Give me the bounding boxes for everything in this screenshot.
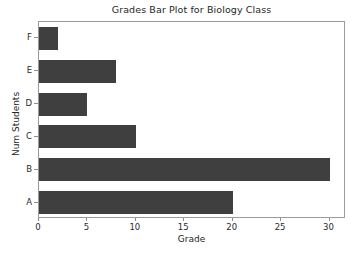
- y-tick-label-a: A: [2, 197, 32, 207]
- x-axis-label: Grade: [38, 234, 345, 244]
- x-tick-20: [232, 218, 233, 221]
- y-tick-a: [34, 202, 38, 203]
- bar-fill: [39, 125, 136, 148]
- y-tick-f: [34, 37, 38, 38]
- x-tick-label-0: 0: [35, 222, 40, 232]
- x-tick-5: [86, 218, 87, 221]
- x-tick-label-5: 5: [84, 222, 89, 232]
- bar-d: [39, 93, 87, 116]
- y-tick-b: [34, 169, 38, 170]
- x-tick-25: [280, 218, 281, 221]
- bar-fill: [39, 191, 233, 214]
- x-tick-30: [329, 218, 330, 221]
- x-tick-label-25: 25: [275, 222, 286, 232]
- bar-a: [39, 191, 233, 214]
- bar-c: [39, 125, 136, 148]
- bar-b: [39, 158, 330, 181]
- y-tick-d: [34, 103, 38, 104]
- chart-title: Grades Bar Plot for Biology Class: [38, 4, 345, 15]
- x-tick-0: [38, 218, 39, 221]
- x-tick-label-30: 30: [323, 222, 334, 232]
- bar-fill: [39, 158, 330, 181]
- bar-chart-figure: Grades Bar Plot for Biology Class 051015…: [0, 0, 353, 271]
- x-tick-label-10: 10: [129, 222, 140, 232]
- y-tick-c: [34, 136, 38, 137]
- bar-f: [39, 27, 58, 50]
- y-tick-e: [34, 70, 38, 71]
- x-tick-label-15: 15: [178, 222, 189, 232]
- x-tick-label-20: 20: [226, 222, 237, 232]
- x-tick-15: [183, 218, 184, 221]
- bar-fill: [39, 93, 87, 116]
- bar-fill: [39, 27, 58, 50]
- bar-fill: [39, 60, 116, 83]
- y-axis-label: Num Students: [11, 69, 21, 179]
- x-tick-10: [135, 218, 136, 221]
- plot-area: [38, 21, 345, 218]
- y-tick-label-f: F: [2, 32, 32, 42]
- bar-e: [39, 60, 116, 83]
